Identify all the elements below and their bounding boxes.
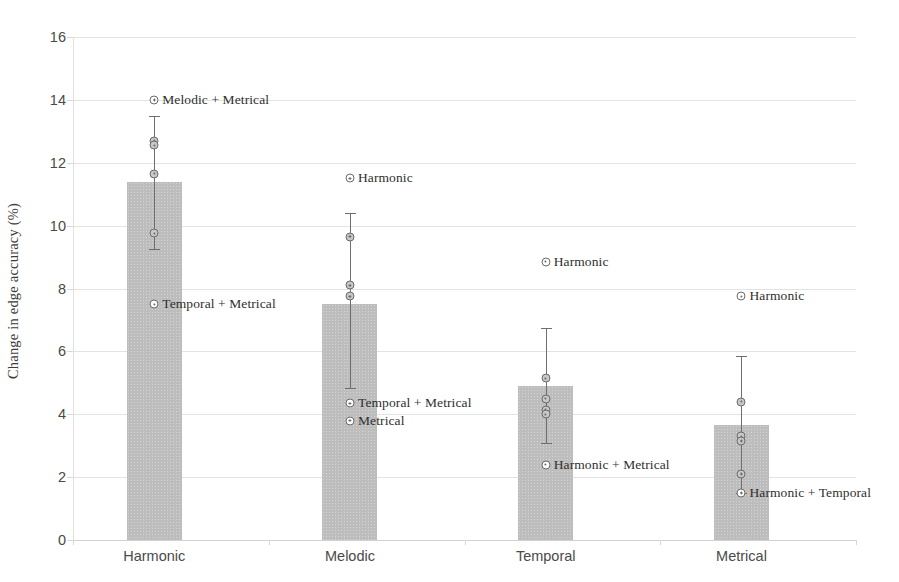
x-axis-tick-label-harmonic: Harmonic bbox=[123, 548, 185, 564]
data-point-marker[interactable] bbox=[737, 436, 746, 445]
marker-center-dot bbox=[740, 473, 742, 475]
gridline bbox=[73, 289, 856, 290]
gridline bbox=[73, 226, 856, 227]
y-axis-tickmark bbox=[67, 414, 73, 415]
y-axis-tickmark bbox=[67, 351, 73, 352]
y-axis-tickmark bbox=[67, 477, 73, 478]
data-point-marker[interactable] bbox=[541, 394, 550, 403]
point-annotation-label: Harmonic + Temporal bbox=[749, 485, 871, 501]
marker-center-dot bbox=[349, 419, 351, 421]
point-annotation-label: Temporal + Metrical bbox=[358, 395, 472, 411]
error-bar-cap-lower bbox=[149, 249, 160, 250]
error-bar-cap-lower bbox=[345, 388, 356, 389]
annotated-point-marker[interactable] bbox=[345, 416, 354, 425]
data-point-marker[interactable] bbox=[345, 232, 354, 241]
error-bar-cap-lower bbox=[541, 443, 552, 444]
marker-center-dot bbox=[545, 397, 547, 399]
x-axis-tick-labels: HarmonicMelodicTemporalMetrical bbox=[73, 548, 856, 576]
annotated-point-marker[interactable] bbox=[345, 399, 354, 408]
data-point-marker[interactable] bbox=[345, 281, 354, 290]
error-bar-cap-upper bbox=[541, 328, 552, 329]
marker-center-dot bbox=[153, 144, 155, 146]
point-annotation-label: Metrical bbox=[358, 413, 405, 429]
marker-center-dot bbox=[349, 236, 351, 238]
y-axis-tick-label: 10 bbox=[36, 218, 66, 233]
annotated-point-marker[interactable] bbox=[345, 174, 354, 183]
y-axis-tick-label: 0 bbox=[36, 533, 66, 548]
data-point-marker[interactable] bbox=[541, 374, 550, 383]
annotated-point-marker[interactable] bbox=[541, 460, 550, 469]
y-axis-tickmark bbox=[67, 226, 73, 227]
data-point-marker[interactable] bbox=[150, 169, 159, 178]
y-axis-tickmark bbox=[67, 163, 73, 164]
y-axis-tickmark bbox=[67, 100, 73, 101]
bar-chart-figure: Change in edge accuracy (%) 024681012141… bbox=[0, 0, 899, 582]
marker-center-dot bbox=[740, 295, 742, 297]
marker-center-dot bbox=[545, 261, 547, 263]
y-axis-tickmark bbox=[67, 37, 73, 38]
marker-center-dot bbox=[153, 99, 155, 101]
annotated-point-marker[interactable] bbox=[150, 300, 159, 309]
data-point-marker[interactable] bbox=[737, 469, 746, 478]
marker-center-dot bbox=[740, 401, 742, 403]
gridline bbox=[73, 414, 856, 415]
marker-center-dot bbox=[349, 284, 351, 286]
x-axis-tickmark bbox=[465, 540, 466, 545]
data-point-marker[interactable] bbox=[737, 397, 746, 406]
point-annotation-label: Harmonic + Metrical bbox=[554, 457, 670, 473]
error-bar-temporal bbox=[546, 328, 547, 443]
y-axis-tick-label: 4 bbox=[36, 407, 66, 422]
x-axis-tickmark bbox=[660, 540, 661, 545]
point-annotation-label: Harmonic bbox=[749, 288, 804, 304]
marker-center-dot bbox=[545, 377, 547, 379]
data-point-marker[interactable] bbox=[541, 410, 550, 419]
x-axis-tick-label-temporal: Temporal bbox=[516, 548, 576, 564]
point-annotation-label: Melodic + Metrical bbox=[162, 92, 269, 108]
y-axis-tick-label: 8 bbox=[36, 281, 66, 296]
x-axis-tickmark bbox=[269, 540, 270, 545]
marker-center-dot bbox=[740, 440, 742, 442]
marker-center-dot bbox=[153, 303, 155, 305]
gridline bbox=[73, 163, 856, 164]
plot-area: Melodic + MetricalTemporal + MetricalHar… bbox=[73, 37, 856, 540]
point-annotation-label: Harmonic bbox=[358, 170, 413, 186]
point-annotation-label: Harmonic bbox=[554, 254, 609, 270]
x-axis-tick-label-melodic: Melodic bbox=[325, 548, 375, 564]
y-axis-tick-label: 6 bbox=[36, 344, 66, 359]
marker-center-dot bbox=[349, 295, 351, 297]
marker-center-dot bbox=[153, 232, 155, 234]
gridline bbox=[73, 37, 856, 38]
annotated-point-marker[interactable] bbox=[737, 292, 746, 301]
marker-center-dot bbox=[349, 402, 351, 404]
error-bar-cap-upper bbox=[149, 116, 160, 117]
data-point-marker[interactable] bbox=[150, 229, 159, 238]
y-axis-tick-labels: 0246810121416 bbox=[30, 0, 66, 582]
marker-center-dot bbox=[545, 413, 547, 415]
point-annotation-label: Temporal + Metrical bbox=[162, 296, 276, 312]
marker-center-dot bbox=[740, 492, 742, 494]
x-axis-tick-label-metrical: Metrical bbox=[716, 548, 767, 564]
y-axis-tick-label: 12 bbox=[36, 156, 66, 171]
marker-center-dot bbox=[153, 173, 155, 175]
data-point-marker[interactable] bbox=[150, 141, 159, 150]
annotated-point-marker[interactable] bbox=[541, 257, 550, 266]
y-axis-tick-label: 16 bbox=[36, 30, 66, 45]
annotated-point-marker[interactable] bbox=[150, 95, 159, 104]
gridline bbox=[73, 351, 856, 352]
x-axis-tickmark bbox=[73, 540, 74, 545]
x-axis-tickmark bbox=[856, 540, 857, 545]
y-axis-tick-label: 14 bbox=[36, 93, 66, 108]
marker-center-dot bbox=[349, 177, 351, 179]
y-axis-title: Change in edge accuracy (%) bbox=[0, 0, 26, 582]
y-axis-tick-label: 2 bbox=[36, 470, 66, 485]
marker-center-dot bbox=[545, 463, 547, 465]
error-bar-cap-upper bbox=[345, 213, 356, 214]
y-axis-tickmark bbox=[67, 289, 73, 290]
data-point-marker[interactable] bbox=[345, 292, 354, 301]
error-bar-cap-upper bbox=[736, 356, 747, 357]
annotated-point-marker[interactable] bbox=[737, 488, 746, 497]
